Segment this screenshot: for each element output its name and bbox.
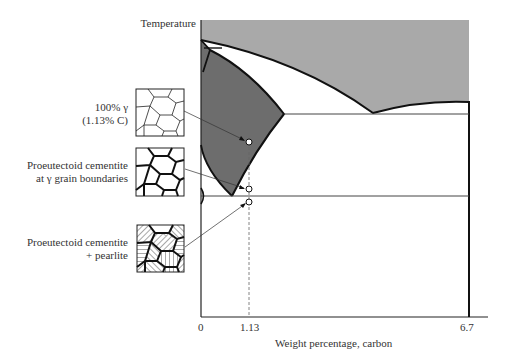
arrowhead-boundary xyxy=(239,185,245,189)
state-point-pearlite xyxy=(246,199,252,205)
phase-diagram xyxy=(0,0,505,364)
state-point-austenite xyxy=(246,139,252,145)
state-point-boundary xyxy=(246,186,252,192)
microstructure-austenite xyxy=(136,89,184,136)
leader-pearlite xyxy=(185,204,245,247)
microstructure-pearlite xyxy=(137,225,184,272)
microstructure-boundary-cementite xyxy=(136,148,184,196)
